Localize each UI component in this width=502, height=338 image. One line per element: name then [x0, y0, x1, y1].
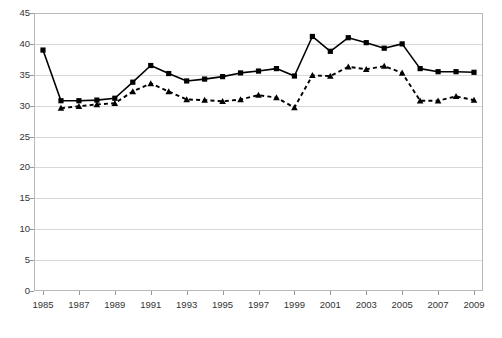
x-axis-tick — [43, 291, 44, 295]
x-axis-label: 1991 — [131, 300, 171, 310]
x-axis-label: 2003 — [346, 300, 386, 310]
x-axis-label: 1999 — [274, 300, 314, 310]
x-axis-label: 1985 — [23, 300, 63, 310]
y-axis-label: 40 — [4, 39, 30, 49]
x-axis-tick — [438, 291, 439, 295]
y-axis-tick — [30, 137, 34, 138]
x-axis-label: 1995 — [203, 300, 243, 310]
x-axis-label: 2007 — [418, 300, 458, 310]
y-axis-tick — [30, 13, 34, 14]
y-axis-tick — [30, 198, 34, 199]
x-axis-tick — [79, 291, 80, 295]
y-axis-label: 20 — [4, 162, 30, 172]
y-axis-tick — [30, 75, 34, 76]
y-axis-label: 15 — [4, 193, 30, 203]
x-axis-tick — [259, 291, 260, 295]
plot-area — [34, 13, 483, 291]
y-axis-label: 5 — [4, 255, 30, 265]
x-axis-label: 1997 — [239, 300, 279, 310]
gridline — [35, 198, 482, 199]
x-axis-label: 1993 — [167, 300, 207, 310]
y-axis-tick — [30, 260, 34, 261]
x-axis-tick — [151, 291, 152, 295]
y-axis-label: 45 — [4, 8, 30, 18]
y-axis-tick — [30, 229, 34, 230]
x-axis-tick — [330, 291, 331, 295]
x-axis-tick — [402, 291, 403, 295]
x-axis-tick — [223, 291, 224, 295]
y-axis-label: 35 — [4, 70, 30, 80]
y-axis-tick — [30, 291, 34, 292]
x-axis-tick — [115, 291, 116, 295]
x-axis-tick — [187, 291, 188, 295]
gridline — [35, 260, 482, 261]
x-axis-label: 2001 — [310, 300, 350, 310]
y-axis-label: 30 — [4, 101, 30, 111]
line-chart: 051015202530354045 198519871989199119931… — [0, 0, 502, 338]
y-axis-tick — [30, 167, 34, 168]
gridline — [35, 75, 482, 76]
gridline — [35, 137, 482, 138]
y-axis-label: 10 — [4, 224, 30, 234]
gridline — [35, 106, 482, 107]
y-axis-label: 0 — [4, 286, 30, 296]
x-axis-tick — [474, 291, 475, 295]
y-axis-label: 25 — [4, 132, 30, 142]
y-axis-tick — [30, 44, 34, 45]
x-axis-label: 1987 — [59, 300, 99, 310]
x-axis-tick — [366, 291, 367, 295]
gridline — [35, 229, 482, 230]
y-axis-tick — [30, 106, 34, 107]
gridline — [35, 167, 482, 168]
x-axis-label: 2009 — [454, 300, 494, 310]
gridline — [35, 44, 482, 45]
x-axis-label: 1989 — [95, 300, 135, 310]
x-axis-label: 2005 — [382, 300, 422, 310]
x-axis-tick — [294, 291, 295, 295]
